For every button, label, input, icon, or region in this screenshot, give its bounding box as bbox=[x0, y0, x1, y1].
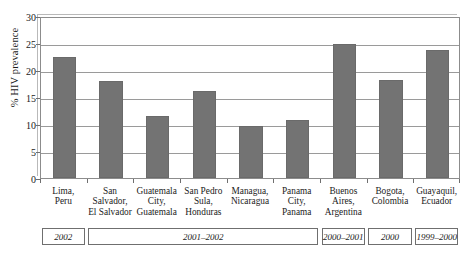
x-tick-mark bbox=[227, 179, 228, 183]
category-label-line: Honduras bbox=[166, 207, 241, 217]
bar bbox=[379, 80, 402, 178]
category-label-line: Argentina bbox=[306, 207, 381, 217]
x-tick-mark bbox=[87, 179, 88, 183]
period-legend-bar: 20022001–20022000–200120001999–2000 bbox=[40, 228, 460, 245]
x-tick-mark bbox=[133, 179, 134, 183]
x-tick-mark bbox=[320, 179, 321, 183]
x-tick-mark bbox=[459, 179, 460, 183]
period-label: 2001–2002 bbox=[183, 232, 224, 242]
y-tick-label: 30 bbox=[10, 12, 36, 23]
y-tick-label: 10 bbox=[10, 120, 36, 131]
bar bbox=[239, 126, 262, 178]
y-axis-ticks: 051015202530 bbox=[8, 17, 36, 179]
bar bbox=[53, 57, 76, 178]
plot-area bbox=[40, 17, 460, 179]
bars-group bbox=[41, 18, 459, 178]
x-tick-mark bbox=[180, 179, 181, 183]
period-box: 1999–2000 bbox=[415, 228, 459, 245]
period-box: 2000–2001 bbox=[322, 228, 366, 245]
y-tick-label: 20 bbox=[10, 66, 36, 77]
y-tick-label: 25 bbox=[10, 39, 36, 50]
x-axis-ticks bbox=[40, 179, 460, 184]
period-box: 2000 bbox=[368, 228, 412, 245]
x-tick-mark bbox=[40, 179, 41, 183]
period-label: 2000 bbox=[381, 232, 399, 242]
y-tick-label: 15 bbox=[10, 93, 36, 104]
hiv-prevalence-bar-chart: % HIV prevalence 051015202530 Lima,PeruS… bbox=[0, 0, 469, 254]
category-label-line: Ecuador bbox=[399, 196, 469, 206]
period-box: 2001–2002 bbox=[88, 228, 318, 245]
bar bbox=[426, 50, 449, 178]
bar bbox=[286, 120, 309, 178]
x-tick-mark bbox=[413, 179, 414, 183]
y-tick-label: 5 bbox=[10, 147, 36, 158]
x-axis-category-labels: Lima,PeruSanSalvador,El SalvadorGuatemal… bbox=[40, 186, 460, 220]
y-tick-label: 0 bbox=[10, 174, 36, 185]
bar bbox=[146, 116, 169, 178]
bar bbox=[99, 81, 122, 178]
x-tick-mark bbox=[367, 179, 368, 183]
period-label: 2000–2001 bbox=[323, 232, 364, 242]
bar bbox=[333, 44, 356, 178]
category-label: Guayaquil,Ecuador bbox=[399, 186, 469, 207]
period-box: 2002 bbox=[42, 228, 86, 245]
category-label-line: Guayaquil, bbox=[399, 186, 469, 196]
bar bbox=[193, 91, 216, 178]
period-label: 2002 bbox=[54, 232, 72, 242]
period-label: 1999–2000 bbox=[416, 232, 457, 242]
x-tick-mark bbox=[273, 179, 274, 183]
